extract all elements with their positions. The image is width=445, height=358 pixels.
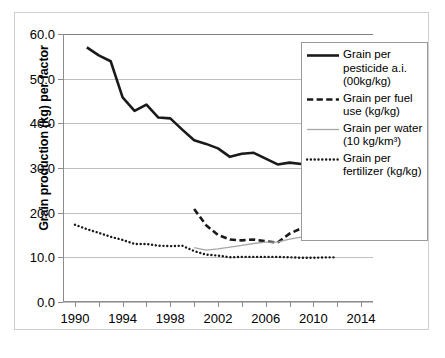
legend-swatch-icon: [306, 152, 340, 167]
y-tick-label: 40.0: [30, 116, 55, 131]
x-tick-mark: [218, 302, 219, 307]
legend-entry[interactable]: Grain per fuel use (kg/kg): [306, 92, 423, 119]
series-line: [87, 47, 337, 164]
x-tick-label: 1994: [108, 311, 137, 326]
y-tick-mark: [58, 302, 63, 303]
y-tick-label: 20.0: [30, 205, 55, 220]
x-tick-mark: [242, 302, 243, 307]
x-tick-label: 1990: [60, 311, 89, 326]
y-tick-label: 60.0: [30, 27, 55, 42]
legend-entry[interactable]: Grain per fertilizer (kg/kg): [306, 152, 423, 179]
legend-label: Grain per pesticide a.i. (00kg/kg): [343, 48, 423, 89]
y-tick-label: 10.0: [30, 250, 55, 265]
chart-legend: Grain per pesticide a.i. (00kg/kg)Grain …: [301, 42, 428, 241]
legend-swatch-icon: [306, 48, 340, 63]
x-tick-label: 1998: [156, 311, 185, 326]
x-tick-mark: [194, 302, 195, 307]
x-tick-label: 2010: [299, 311, 328, 326]
legend-swatch-icon: [306, 122, 340, 137]
legend-label: Grain per fertilizer (kg/kg): [343, 152, 423, 179]
y-tick-label: 0.0: [37, 295, 55, 310]
x-tick-mark: [313, 302, 314, 307]
x-tick-label: 2002: [204, 311, 233, 326]
legend-entry[interactable]: Grain per pesticide a.i. (00kg/kg): [306, 48, 423, 89]
x-tick-mark: [75, 302, 76, 307]
legend-label: Grain per fuel use (kg/kg): [343, 92, 423, 119]
x-tick-mark: [266, 302, 267, 307]
x-tick-label: 2006: [251, 311, 280, 326]
x-tick-mark: [99, 302, 100, 307]
x-tick-mark: [170, 302, 171, 307]
x-tick-label: 2014: [347, 311, 376, 326]
x-tick-mark: [361, 302, 362, 307]
y-tick-label: 30.0: [30, 161, 55, 176]
x-tick-mark: [290, 302, 291, 307]
x-tick-mark: [337, 302, 338, 307]
y-tick-label: 50.0: [30, 71, 55, 86]
legend-label: Grain per water (10 kg/km³): [343, 122, 423, 149]
x-tick-mark: [123, 302, 124, 307]
legend-entry[interactable]: Grain per water (10 kg/km³): [306, 122, 423, 149]
legend-swatch-icon: [306, 92, 340, 107]
x-tick-mark: [146, 302, 147, 307]
